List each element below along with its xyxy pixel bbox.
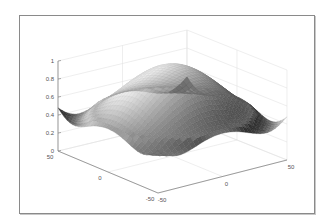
z-tick xyxy=(58,115,61,116)
surface-plot: 00.20.40.60.81500-50-50050 xyxy=(0,0,330,222)
surface-mesh xyxy=(58,64,287,156)
z-tick xyxy=(58,79,61,80)
z-tick-label: 0.2 xyxy=(46,130,55,136)
z-tick-label: 0.6 xyxy=(46,94,55,100)
z-tick xyxy=(58,97,61,98)
z-tick-label: 1 xyxy=(51,58,55,64)
z-tick-label: 0.8 xyxy=(46,76,55,82)
y-tick-label: 50 xyxy=(47,154,54,160)
z-tick xyxy=(58,61,61,62)
z-tick-label: 0.4 xyxy=(46,112,55,118)
x-tick-label: 50 xyxy=(288,164,295,170)
y-axis-line xyxy=(58,151,158,193)
z-tick xyxy=(58,151,61,152)
x-axis-line xyxy=(158,160,287,193)
x-tick-label: -50 xyxy=(158,197,167,203)
z-tick xyxy=(58,133,61,134)
x-tick-label: 0 xyxy=(225,181,229,187)
y-tick-label: -50 xyxy=(146,196,155,202)
y-tick-label: 0 xyxy=(98,175,102,181)
